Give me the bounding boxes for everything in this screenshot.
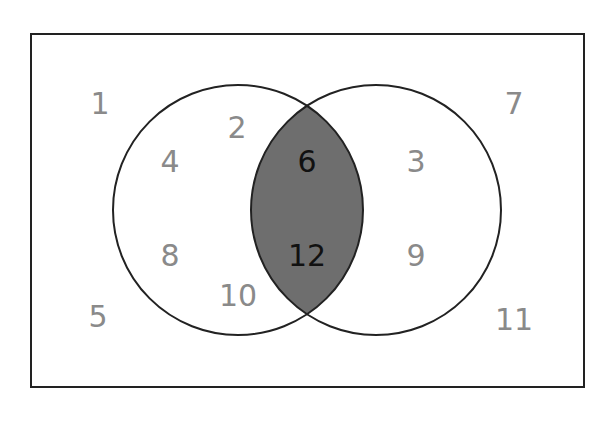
venn-diagram: 157112481061239: [0, 0, 611, 422]
label-outside-11: 11: [495, 302, 533, 337]
label-left-only-4: 4: [160, 144, 179, 179]
label-left-only-10: 10: [219, 278, 257, 313]
label-intersection-12: 12: [288, 238, 326, 273]
label-intersection-6: 6: [297, 144, 316, 179]
label-outside-7: 7: [504, 86, 523, 121]
label-outside-1: 1: [90, 86, 109, 121]
label-right-only-3: 3: [406, 144, 425, 179]
label-right-only-9: 9: [406, 238, 425, 273]
label-left-only-8: 8: [160, 238, 179, 273]
label-outside-5: 5: [88, 299, 107, 334]
label-left-only-2: 2: [227, 110, 246, 145]
